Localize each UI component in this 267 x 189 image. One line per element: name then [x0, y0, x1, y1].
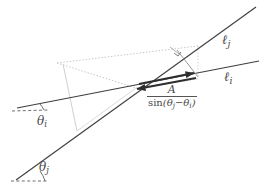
- line-i: [17, 61, 259, 108]
- label-line-j: ℓj: [222, 33, 230, 48]
- line-j: [16, 7, 256, 180]
- vector-arrow-right: [139, 73, 194, 84]
- dashed-reference-i: [12, 110, 48, 111]
- dotted-parallel-upper: [57, 46, 198, 63]
- label-angle-theta-j: θj: [39, 161, 49, 175]
- label-vector-magnitude: A sin(θj−θi): [147, 84, 197, 109]
- label-line-i: ℓi: [224, 70, 232, 85]
- fraction-denominator: sin(θj−θi): [147, 97, 197, 109]
- perpendicular-segment: [177, 50, 198, 77]
- sin-function-name: sin: [148, 97, 163, 108]
- dotted-connector-left: [57, 63, 136, 88]
- angle-arc-i: [40, 104, 44, 110]
- fraction-numerator: A: [166, 84, 178, 96]
- label-angle-theta-i: θi: [37, 115, 47, 129]
- geometry-figure: ℓj ℓi θi θj A sin(θj−θi): [0, 0, 267, 189]
